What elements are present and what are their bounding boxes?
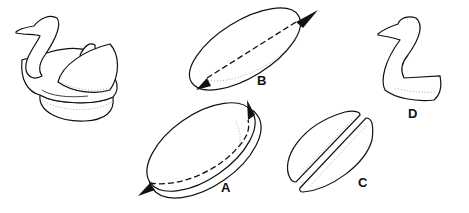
label-a: A xyxy=(221,180,230,195)
panel-b-illustration xyxy=(177,0,318,106)
swan-assembly-diagram xyxy=(0,0,469,213)
label-c: C xyxy=(358,175,367,190)
panel-a-illustration xyxy=(132,85,277,213)
label-d: D xyxy=(408,106,417,121)
panel-d-illustration xyxy=(378,17,441,101)
label-b: B xyxy=(257,73,266,88)
assembled-swan-illustration xyxy=(16,16,118,121)
